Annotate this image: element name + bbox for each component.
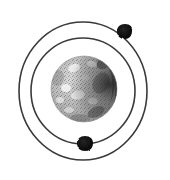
electron-inner-blob (77, 136, 93, 151)
electron-outer-blob (117, 24, 132, 39)
atom-diagram-canvas (0, 0, 170, 180)
atom-diagram-figure: Bohr model of an atom (0, 0, 170, 180)
electron-inner-bottom (77, 136, 93, 151)
electron-outer-upper-right (117, 24, 132, 39)
